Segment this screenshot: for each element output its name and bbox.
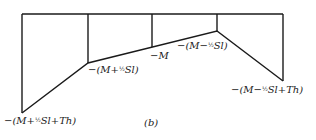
label-text: Sl+Th) bbox=[268, 84, 303, 95]
label-right-bottom: −(M−½Sl+Th) bbox=[231, 85, 303, 95]
label-text: Sl) bbox=[125, 64, 139, 75]
label-fourth: −(M−½Sl) bbox=[177, 41, 228, 51]
label-text: Sl+Th) bbox=[41, 115, 76, 126]
caption-text: (b) bbox=[144, 117, 158, 128]
label-text: −M bbox=[150, 50, 169, 61]
label-middle: −M bbox=[150, 51, 169, 61]
label-text: −(M− bbox=[231, 84, 262, 95]
figure-caption: (b) bbox=[144, 118, 158, 128]
label-text: −(M+ bbox=[4, 115, 35, 126]
label-text: −(M+ bbox=[88, 64, 119, 75]
label-left-bottom: −(M+½Sl+Th) bbox=[4, 116, 76, 126]
label-text: −(M− bbox=[177, 40, 208, 51]
label-second: −(M+½Sl) bbox=[88, 65, 139, 75]
label-text: Sl) bbox=[214, 40, 228, 51]
